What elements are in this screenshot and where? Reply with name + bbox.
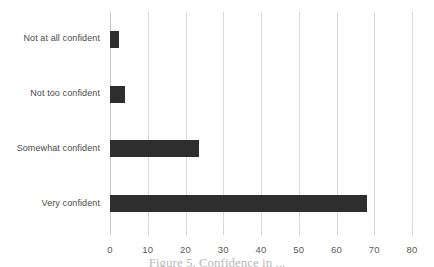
x-tick-label: 20 <box>166 244 206 255</box>
x-tick-mark-0 <box>110 231 111 235</box>
category-label: Very confident <box>42 198 100 208</box>
x-tick-label: 60 <box>317 244 357 255</box>
x-tick-label: 50 <box>279 244 319 255</box>
x-tick-label: 30 <box>203 244 243 255</box>
x-tick-mark-40 <box>261 231 262 235</box>
category-axis-labels: Very confidentSomewhat confidentNot too … <box>0 12 104 231</box>
x-tick-mark-20 <box>186 231 187 235</box>
x-tick-mark-50 <box>299 231 300 235</box>
plot-area: 01020304050607080 <box>110 12 412 231</box>
x-tick-label: 40 <box>241 244 281 255</box>
x-tick-mark-80 <box>412 231 413 235</box>
x-tick-label: 70 <box>354 244 394 255</box>
gridline-70 <box>374 12 375 231</box>
x-tick-mark-30 <box>223 231 224 235</box>
bar-chart-figure: Very confidentSomewhat confidentNot too … <box>0 0 434 267</box>
category-label: Somewhat confident <box>17 143 100 153</box>
gridline-80 <box>412 12 413 231</box>
x-tick-label: 0 <box>90 244 130 255</box>
x-tick-mark-70 <box>374 231 375 235</box>
bar <box>110 86 125 103</box>
figure-caption: Figure 5. Confidence in ... <box>0 255 434 267</box>
x-tick-label: 10 <box>128 244 168 255</box>
x-tick-mark-60 <box>337 231 338 235</box>
bar <box>110 31 119 48</box>
bar <box>110 195 367 212</box>
category-label: Not too confident <box>30 88 100 98</box>
x-tick-label: 80 <box>392 244 432 255</box>
category-label: Not at all confident <box>23 33 100 43</box>
x-tick-mark-10 <box>148 231 149 235</box>
bar <box>110 140 199 157</box>
